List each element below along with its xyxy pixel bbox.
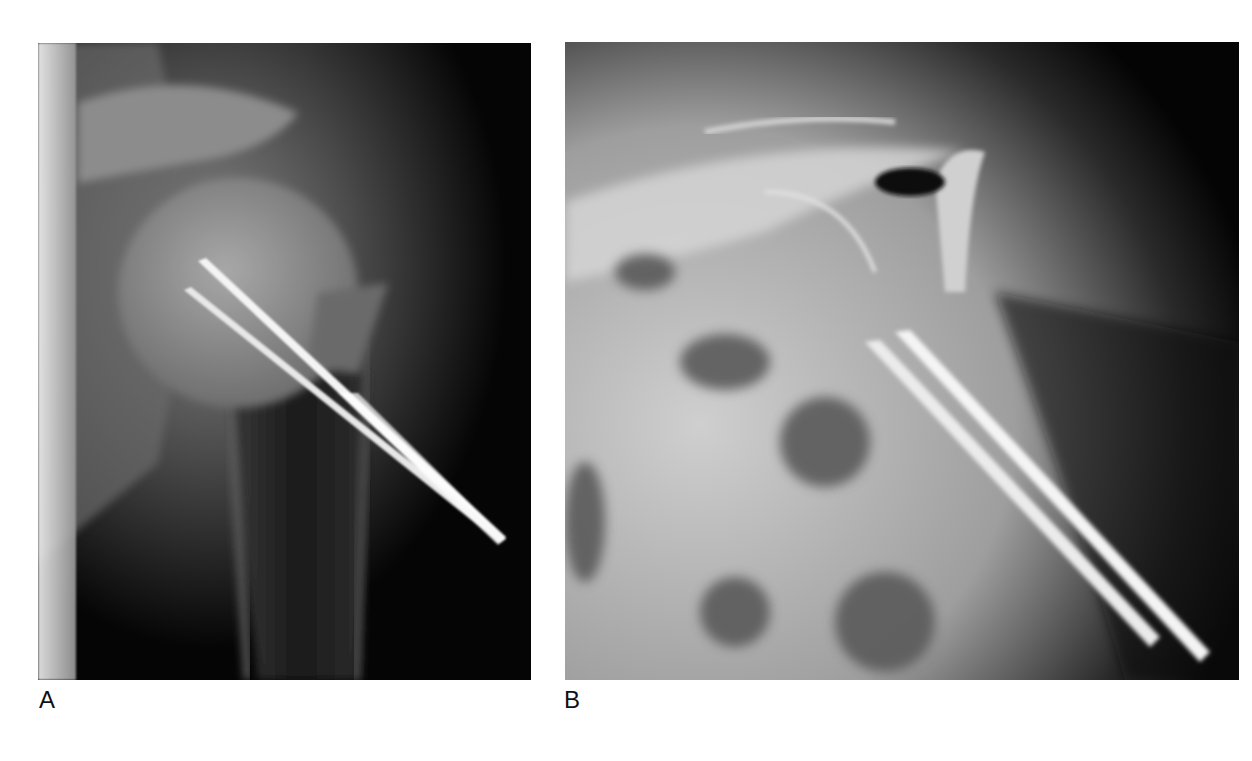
xray-image-b — [565, 42, 1239, 680]
xray-panel-a — [38, 43, 531, 680]
xray-image-a — [38, 43, 531, 680]
xray-panel-b — [565, 42, 1239, 680]
panel-label-b: B — [564, 688, 580, 712]
panel-label-a: A — [39, 688, 55, 712]
